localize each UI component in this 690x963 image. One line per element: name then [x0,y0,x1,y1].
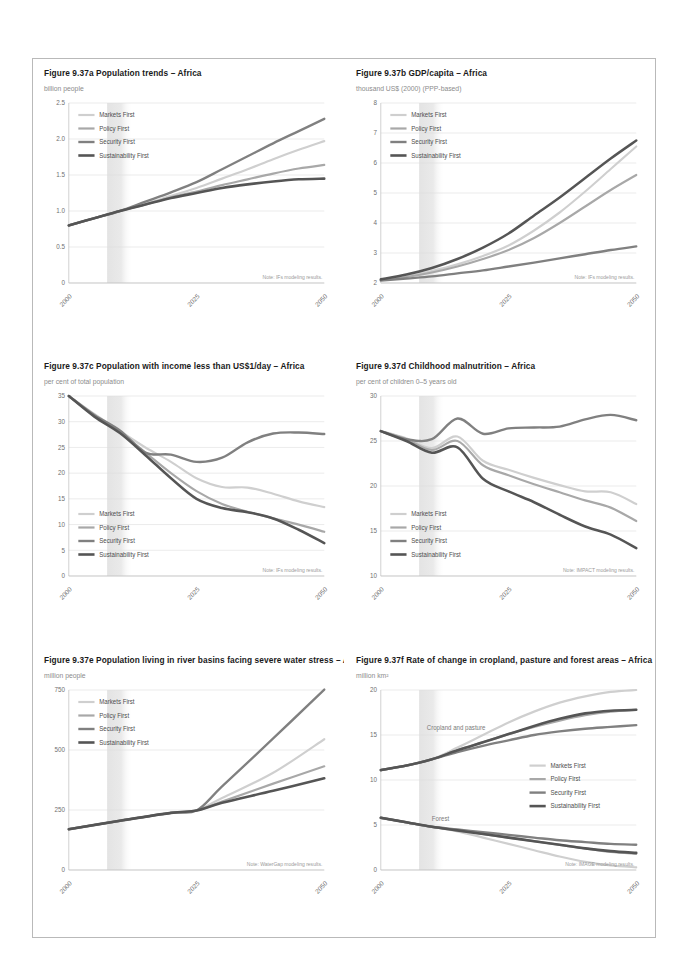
legend-label-markets-first: Markets First [99,511,134,518]
figure-panel-c: Figure 9.37c Population with income less… [32,351,344,644]
y-tick-label: 3 [373,249,377,256]
x-tick-label: 2025 [498,292,513,308]
legend-label-markets-first: Markets First [550,762,585,769]
legend-label-security-first: Security First [99,138,135,145]
y-tick-label: 750 [54,686,65,693]
x-tick-label: 2050 [314,292,329,308]
legend-label-markets-first: Markets First [411,511,446,518]
legend-label-policy-first: Policy First [99,711,129,718]
figure-subtitle-a: billion people [44,84,330,93]
figure-subtitle-d: per cent of children 0–5 years old [356,377,642,386]
legend-label-sustainability-first: Sustainability First [99,152,149,159]
y-tick-label: 0 [61,572,65,579]
y-tick-label: 2.5 [56,99,65,106]
historical-shading-c [107,396,133,576]
y-tick-label: 20 [58,470,65,477]
x-tick-label: 2025 [186,585,201,601]
x-tick-label: 2025 [498,585,513,601]
legend-label-sustainability-first: Sustainability First [99,738,149,745]
chart-svg-e: 0250500750200020252050Markets FirstPolic… [44,684,330,910]
y-tick-label: 35 [58,392,65,399]
legend-label-policy-first: Policy First [99,125,129,132]
x-tick-label: 2050 [626,585,641,601]
y-tick-label: 20 [370,686,377,693]
x-tick-label: 2000 [58,292,73,308]
source-note-c: Note: IFs modeling results. [263,567,323,573]
y-tick-label: 0 [61,279,65,286]
legend-label-markets-first: Markets First [99,111,134,118]
figure-panel-d: Figure 9.37d Childhood malnutrition – Af… [344,351,656,644]
legend-label-security-first: Security First [99,538,135,545]
x-tick-label: 2000 [370,879,385,895]
legend-label-policy-first: Policy First [411,125,441,132]
x-tick-label: 2025 [186,292,201,308]
y-tick-label: 7 [373,129,377,136]
chart-svg-a: 00.51.01.52.02.5200020252050Markets Firs… [44,97,330,323]
x-tick-label: 2000 [370,292,385,308]
source-note-d: Note: IMPACT modeling results. [563,567,634,573]
figure-subtitle-b: thousand US$ (2000) (PPP-based) [356,84,642,93]
figure-panel-e: Figure 9.37e Population living in river … [32,645,344,938]
plot-area-c: 05101520253035200020252050Markets FirstP… [44,390,330,616]
y-tick-label: 30 [58,418,65,425]
legend-label-policy-first: Policy First [99,524,129,531]
figure-title-e: Figure 9.37e Population living in river … [44,655,330,666]
legend-label-policy-first: Policy First [550,775,580,782]
figure-title-f: Figure 9.37f Rate of change in cropland,… [356,655,642,666]
plot-area-f: 05101520200020252050Cropland and pasture… [356,684,642,910]
y-tick-label: 10 [58,521,65,528]
figure-subtitle-e: million people [44,671,330,680]
y-tick-label: 30 [370,392,377,399]
y-tick-label: 2.0 [56,135,65,142]
y-tick-label: 2 [373,279,377,286]
legend-label-security-first: Security First [411,538,447,545]
document-page: Figure 9.37a Population trends – Africab… [0,0,690,963]
inline-annotation: Cropland and pasture [427,723,486,730]
legend-label-security-first: Security First [99,725,135,732]
y-tick-label: 25 [370,437,377,444]
y-tick-label: 5 [373,821,377,828]
y-tick-label: 15 [370,731,377,738]
y-tick-label: 5 [61,547,65,554]
y-tick-label: 250 [54,806,65,813]
legend-f: Markets FirstPolicy FirstSecurity FirstS… [530,762,601,810]
figure-subtitle-f: million km² [356,671,642,680]
legend-label-sustainability-first: Sustainability First [411,551,461,558]
chart-svg-c: 05101520253035200020252050Markets FirstP… [44,390,330,616]
plot-area-a: 00.51.01.52.02.5200020252050Markets Firs… [44,97,330,323]
plot-area-d: 1015202530200020252050Markets FirstPolic… [356,390,642,616]
source-note-a: Note: IFs modeling results. [263,274,323,280]
y-tick-label: 0 [373,866,377,873]
legend-label-sustainability-first: Sustainability First [550,802,600,809]
legend-label-markets-first: Markets First [411,111,446,118]
source-note-b: Note: IFs modeling results. [575,274,635,280]
chart-svg-d: 1015202530200020252050Markets FirstPolic… [356,390,642,616]
y-tick-label: 5 [373,189,377,196]
figure-subtitle-c: per cent of total population [44,377,330,386]
y-tick-label: 8 [373,99,377,106]
y-tick-label: 1.0 [56,207,65,214]
figure-title-a: Figure 9.37a Population trends – Africa [44,68,330,79]
legend-label-security-first: Security First [550,789,586,796]
x-tick-label: 2025 [186,879,201,895]
chart-svg-f: 05101520200020252050Cropland and pasture… [356,684,642,910]
figure-panel-f: Figure 9.37f Rate of change in cropland,… [344,645,656,938]
y-tick-label: 25 [58,444,65,451]
legend-label-sustainability-first: Sustainability First [411,152,461,159]
y-tick-label: 15 [58,495,65,502]
source-note-f: Note: IMAGE modeling results. [565,861,634,867]
chart-svg-b: 2345678200020252050Markets FirstPolicy F… [356,97,642,323]
y-tick-label: 0 [61,866,65,873]
source-note-e: Note: WaterGap modeling results. [247,861,323,867]
figure-panel-b: Figure 9.37b GDP/capita – Africathousand… [344,58,656,351]
y-tick-label: 1.5 [56,171,65,178]
y-tick-label: 10 [370,776,377,783]
plot-area-b: 2345678200020252050Markets FirstPolicy F… [356,97,642,323]
x-tick-label: 2025 [498,879,513,895]
y-tick-label: 0.5 [56,243,65,250]
y-tick-label: 20 [370,482,377,489]
legend-label-sustainability-first: Sustainability First [99,551,149,558]
plot-area-e: 0250500750200020252050Markets FirstPolic… [44,684,330,910]
figure-title-b: Figure 9.37b GDP/capita – Africa [356,68,642,79]
figure-title-c: Figure 9.37c Population with income less… [44,361,330,372]
